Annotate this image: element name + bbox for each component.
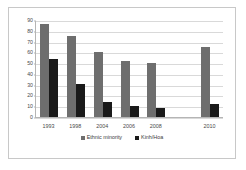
- legend-swatch-icon: [81, 136, 85, 140]
- legend-item[interactable]: Kinh/Hoa: [135, 135, 163, 140]
- bar-group: [63, 21, 90, 117]
- y-axis-tick-label: 80: [27, 29, 33, 34]
- y-axis-tick-label: 10: [27, 105, 33, 110]
- y-axis-tick-label: 90: [27, 18, 33, 23]
- bar-group: [143, 21, 170, 117]
- bar-ethnic-minority: [147, 63, 156, 117]
- y-axis-tick-label: 0: [30, 115, 33, 120]
- x-axis-tick-labels: 199319982004200620082010: [35, 120, 223, 132]
- legend-swatch-icon: [135, 136, 139, 140]
- legend-label: Ethnic minority: [87, 135, 122, 140]
- bar-ethnic-minority: [67, 36, 76, 117]
- bar-kinh-hoa: [103, 102, 112, 117]
- y-axis-tick-label: 40: [27, 72, 33, 77]
- chart-container: 0102030405060708090 19931998200420062008…: [8, 7, 236, 159]
- y-axis-tick-label: 50: [27, 62, 33, 67]
- bar-ethnic-minority: [201, 47, 210, 117]
- x-axis-tick-label: 2004: [89, 120, 116, 132]
- y-axis-tick-label: 30: [27, 83, 33, 88]
- bar-group: [196, 21, 223, 117]
- y-axis-tick-label: 20: [27, 94, 33, 99]
- bar-group: [170, 21, 197, 117]
- x-axis-tick-label: 2008: [142, 120, 169, 132]
- bar-group: [116, 21, 143, 117]
- plot-area: 0102030405060708090: [35, 21, 223, 118]
- x-axis-tick-label: 2010: [196, 120, 223, 132]
- bar-group: [36, 21, 63, 117]
- bar-ethnic-minority: [94, 52, 103, 117]
- bar-kinh-hoa: [156, 108, 165, 117]
- x-axis-tick-label: 2006: [116, 120, 143, 132]
- y-axis-tick-label: 70: [27, 40, 33, 45]
- y-axis-tick-mark: [34, 118, 36, 119]
- bar-kinh-hoa: [130, 106, 139, 117]
- chart-legend: Ethnic minorityKinh/Hoa: [9, 135, 235, 140]
- legend-label: Kinh/Hoa: [141, 135, 163, 140]
- gridline: [36, 118, 223, 119]
- x-axis-tick-label: 1993: [35, 120, 62, 132]
- x-axis-tick-label: 1998: [62, 120, 89, 132]
- y-axis-tick-label: 60: [27, 51, 33, 56]
- x-axis-tick-label: [169, 120, 196, 132]
- bar-kinh-hoa: [210, 104, 219, 117]
- bar-ethnic-minority: [121, 61, 130, 117]
- legend-item[interactable]: Ethnic minority: [81, 135, 122, 140]
- bar-series-group: [36, 21, 223, 117]
- bar-ethnic-minority: [40, 24, 49, 117]
- bar-kinh-hoa: [49, 59, 58, 117]
- bar-group: [89, 21, 116, 117]
- bar-kinh-hoa: [76, 84, 85, 117]
